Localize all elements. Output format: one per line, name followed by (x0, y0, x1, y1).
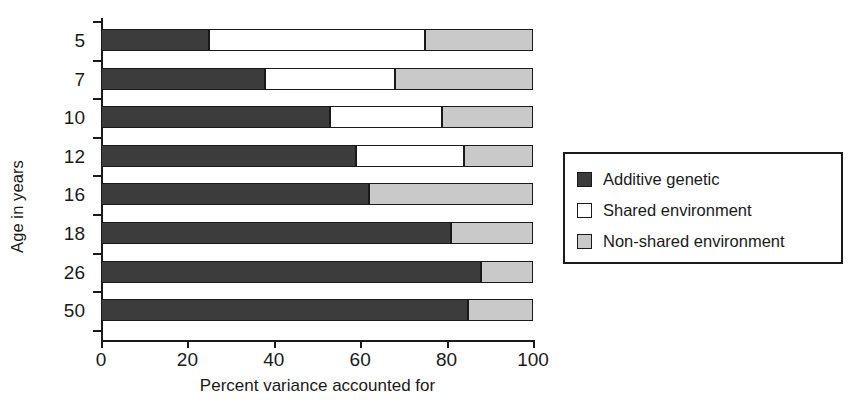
x-axis-tick-label: 80 (436, 350, 457, 369)
y-axis-tick-mark (93, 330, 101, 332)
bar-segment (451, 222, 533, 244)
legend-item: Shared environment (577, 195, 841, 226)
x-axis-tick-mark (101, 340, 103, 348)
legend-label: Additive genetic (603, 171, 720, 188)
plot-area (101, 20, 533, 340)
y-axis-tick-label: 18 (36, 224, 94, 243)
x-axis-tick-label: 60 (350, 350, 371, 369)
y-axis-tick-mark (93, 21, 101, 23)
x-axis-tick-label: 0 (96, 350, 107, 369)
legend-label: Shared environment (603, 202, 752, 219)
bar-segment (101, 299, 468, 321)
bar-segment (369, 183, 533, 205)
y-axis-tick-mark (93, 98, 101, 100)
y-axis-tick-mark (93, 291, 101, 293)
x-axis-tick-mark (274, 340, 276, 348)
bar-segment (101, 222, 451, 244)
bar-segment (101, 183, 369, 205)
bar-segment (464, 145, 533, 167)
y-axis-tick-label: 10 (36, 108, 94, 127)
bar-segment (101, 145, 356, 167)
bar-segment (209, 29, 425, 51)
x-axis-title: Percent variance accounted for (101, 376, 534, 396)
y-axis-tick-label: 16 (36, 185, 94, 204)
chart-legend: Additive geneticShared environmentNon-sh… (563, 152, 843, 264)
x-axis-tick-mark (187, 340, 189, 348)
y-axis-tick-label: 50 (36, 301, 94, 320)
x-axis-tick-label: 100 (517, 350, 549, 369)
y-axis-tick-label: 12 (36, 146, 94, 165)
bar-segment (101, 68, 265, 90)
bar-segment (101, 29, 209, 51)
y-axis-title: Age in years (0, 0, 34, 413)
x-axis-tick-label: 40 (263, 350, 284, 369)
bar-segment (101, 261, 481, 283)
y-axis-tick-label: 26 (36, 262, 94, 281)
legend-swatch-icon (577, 172, 592, 187)
legend-label: Non-shared environment (603, 233, 785, 250)
stacked-bar-chart: Age in years 57101216182650 020406080100… (0, 0, 860, 413)
legend-swatch-icon (577, 203, 592, 218)
x-axis-tick-mark (447, 340, 449, 348)
y-axis-tick-labels: 57101216182650 (36, 0, 94, 413)
bar-segment (330, 106, 442, 128)
y-axis-tick-mark (93, 137, 101, 139)
bar-segment (265, 68, 395, 90)
x-axis-tick-label: 20 (177, 350, 198, 369)
x-axis-tick-mark (533, 340, 535, 348)
x-axis-line (101, 340, 534, 342)
bar-segment (481, 261, 533, 283)
bar-segment (395, 68, 533, 90)
bar-segment (442, 106, 533, 128)
bar-segment (425, 29, 533, 51)
legend-item: Additive genetic (577, 164, 841, 195)
legend-item: Non-shared environment (577, 226, 841, 257)
y-axis-tick-mark (93, 60, 101, 62)
y-axis-tick-mark (93, 175, 101, 177)
y-axis-tick-label: 5 (36, 31, 94, 50)
legend-swatch-icon (577, 234, 592, 249)
y-axis-tick-label: 7 (36, 69, 94, 88)
y-axis-tick-mark (93, 253, 101, 255)
bar-segment (468, 299, 533, 321)
y-axis-tick-mark (93, 214, 101, 216)
bar-segment (356, 145, 464, 167)
x-axis-tick-mark (360, 340, 362, 348)
bar-segment (101, 106, 330, 128)
